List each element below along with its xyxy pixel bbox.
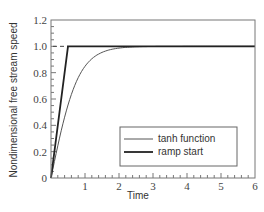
x-tick-label: 3 <box>150 180 156 192</box>
y-tick-label: 0.4 <box>33 119 47 131</box>
legend-label-tanh: tanh function <box>158 133 215 144</box>
legend: tanh function ramp start <box>120 127 237 166</box>
y-tick-label: 0 <box>42 172 48 184</box>
y-axis-title: Nondimensional free stream speed <box>8 22 19 177</box>
line-chart: 12345600.20.40.60.81.01.2 Time Nondimens… <box>0 0 264 212</box>
y-tick-label: 0.6 <box>33 93 47 105</box>
y-tick-label: 1.2 <box>33 14 47 26</box>
y-tick-label: 0.2 <box>33 146 47 158</box>
legend-label-ramp: ramp start <box>158 146 203 157</box>
chart-svg: 12345600.20.40.60.81.01.2 Time Nondimens… <box>0 0 264 212</box>
x-axis-title: Time <box>127 190 149 201</box>
x-tick-label: 6 <box>252 180 258 192</box>
x-tick-label: 1 <box>82 180 88 192</box>
x-tick-label: 4 <box>184 180 190 192</box>
y-tick-label: 1.0 <box>33 40 47 52</box>
x-tick-label: 5 <box>218 180 224 192</box>
y-tick-label: 0.8 <box>33 67 47 79</box>
x-tick-label: 2 <box>116 180 122 192</box>
